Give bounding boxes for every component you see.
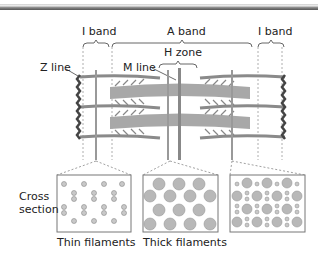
h-zone-label: H zone <box>164 47 202 59</box>
sarcomere-diagram <box>0 0 318 255</box>
z-line-left <box>77 75 80 139</box>
cross-section-label-1: Cross <box>19 191 49 203</box>
thin-filaments-label: Thin filaments <box>57 237 135 249</box>
cross-section-label-2: section <box>19 204 59 216</box>
h-zone-bracket <box>159 61 197 68</box>
i-band-right-label: I band <box>258 26 292 38</box>
m-line <box>178 68 181 160</box>
i-band-left-label: I band <box>82 26 116 38</box>
z-line-label: Z line <box>40 62 71 74</box>
i-band-left-bracket <box>83 40 109 47</box>
i-band-right-bracket <box>258 40 284 47</box>
thick-filaments-label: Thick filaments <box>143 237 227 249</box>
a-band-label: A band <box>167 26 206 38</box>
m-line-label: M line <box>123 62 156 74</box>
